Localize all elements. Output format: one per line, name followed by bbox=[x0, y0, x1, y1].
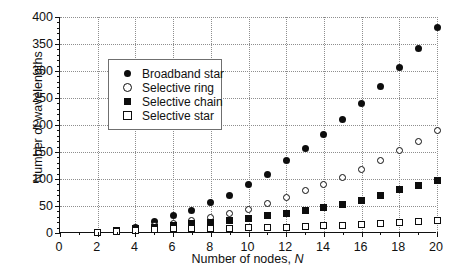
legend-item: Broadband star bbox=[116, 67, 214, 80]
x-tick-major bbox=[98, 232, 99, 237]
y-tick-minor bbox=[57, 49, 60, 50]
x-tick-major bbox=[286, 232, 287, 237]
y-tick-major bbox=[55, 152, 60, 153]
y-tick-minor bbox=[57, 55, 60, 56]
y-tick-minor bbox=[57, 82, 60, 83]
x-tick-major bbox=[437, 232, 438, 237]
y-tick-minor bbox=[57, 184, 60, 185]
legend-item: Selective chain bbox=[116, 95, 214, 108]
x-tick-minor bbox=[305, 232, 306, 235]
y-tick-minor bbox=[57, 222, 60, 223]
y-tick-minor bbox=[57, 190, 60, 191]
x-axis-symbol: N bbox=[294, 252, 303, 266]
legend-item: Selective ring bbox=[116, 81, 214, 94]
y-tick-minor bbox=[57, 76, 60, 77]
y-tick-major bbox=[55, 17, 60, 18]
y-tick-minor bbox=[57, 141, 60, 142]
legend-label: Broadband star bbox=[142, 68, 224, 80]
y-tick-minor bbox=[57, 120, 60, 121]
y-tick-minor bbox=[57, 33, 60, 34]
legend-item: Selective star bbox=[116, 109, 214, 122]
gridline-vertical bbox=[437, 17, 438, 232]
x-tick-minor bbox=[343, 232, 344, 235]
x-tick-minor bbox=[230, 232, 231, 235]
y-tick-minor bbox=[57, 28, 60, 29]
chart-legend: Broadband starSelective ringSelective ch… bbox=[108, 59, 222, 130]
x-tick-minor bbox=[380, 232, 381, 235]
y-tick-minor bbox=[57, 39, 60, 40]
x-tick-minor bbox=[418, 232, 419, 235]
y-tick-major bbox=[55, 98, 60, 99]
legend-marker-open-circle-icon bbox=[116, 83, 138, 92]
y-tick-minor bbox=[57, 114, 60, 115]
y-tick-minor bbox=[57, 87, 60, 88]
y-tick-minor bbox=[57, 60, 60, 61]
x-tick-major bbox=[60, 232, 61, 237]
x-tick-minor bbox=[154, 232, 155, 235]
y-tick-minor bbox=[57, 66, 60, 67]
x-tick-major bbox=[324, 232, 325, 237]
legend-marker-open-square-icon bbox=[116, 111, 138, 120]
y-tick-minor bbox=[57, 217, 60, 218]
y-tick-minor bbox=[57, 136, 60, 137]
y-tick-major bbox=[55, 44, 60, 45]
legend-label: Selective star bbox=[142, 110, 214, 122]
x-tick-major bbox=[399, 232, 400, 237]
x-tick-major bbox=[211, 232, 212, 237]
legend-marker-filled-square-icon bbox=[116, 98, 138, 105]
x-tick-major bbox=[135, 232, 136, 237]
y-tick-minor bbox=[57, 174, 60, 175]
y-tick-minor bbox=[57, 93, 60, 94]
x-tick-minor bbox=[117, 232, 118, 235]
y-tick-label: 0 bbox=[13, 227, 53, 240]
x-tick-minor bbox=[79, 232, 80, 235]
y-tick-minor bbox=[57, 103, 60, 104]
x-tick-major bbox=[362, 232, 363, 237]
y-tick-minor bbox=[57, 22, 60, 23]
x-tick-major bbox=[249, 232, 250, 237]
y-tick-minor bbox=[57, 163, 60, 164]
y-tick-minor bbox=[57, 195, 60, 196]
y-tick-major bbox=[55, 125, 60, 126]
y-tick-minor bbox=[57, 211, 60, 212]
y-tick-minor bbox=[57, 201, 60, 202]
y-tick-minor bbox=[57, 130, 60, 131]
y-tick-major bbox=[55, 71, 60, 72]
legend-label: Selective ring bbox=[142, 82, 214, 94]
y-tick-minor bbox=[57, 109, 60, 110]
x-tick-minor bbox=[267, 232, 268, 235]
y-axis-title: Number of wavelengths bbox=[31, 17, 45, 217]
legend-marker-filled-circle-icon bbox=[116, 70, 138, 77]
x-tick-minor bbox=[192, 232, 193, 235]
y-tick-minor bbox=[57, 168, 60, 169]
chart-figure: 0501001502002503003504000246810121416182… bbox=[0, 0, 455, 278]
y-tick-minor bbox=[57, 228, 60, 229]
x-axis-title: Number of nodes, N bbox=[59, 252, 436, 266]
y-tick-major bbox=[55, 206, 60, 207]
y-tick-minor bbox=[57, 147, 60, 148]
y-tick-minor bbox=[57, 157, 60, 158]
x-tick-major bbox=[173, 232, 174, 237]
legend-label: Selective chain bbox=[142, 96, 223, 108]
y-tick-major bbox=[55, 179, 60, 180]
